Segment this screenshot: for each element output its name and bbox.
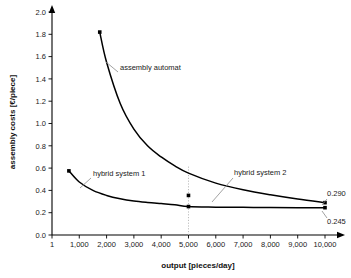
x-axis-title: output [pieces/day] (161, 261, 235, 270)
series-curves (69, 32, 325, 208)
y-tick-label: 0.4 (36, 186, 46, 195)
endpoint-value-labels: 0.2900.245 (327, 189, 346, 226)
data-point-marker (187, 205, 191, 209)
data-point-marker (67, 169, 71, 173)
series-label: assembly automat (120, 63, 182, 72)
x-tick-label: 4,000 (152, 240, 171, 249)
assembly-costs-chart: 0.00.20.40.60.81.01.21.41.61.82.0 assemb… (0, 0, 351, 278)
y-tick-label: 1.4 (36, 75, 46, 84)
y-tick-label: 1.0 (36, 119, 46, 128)
hybrid-system-2-leader-line (212, 178, 233, 202)
data-point-marker (98, 30, 102, 34)
y-tick-label: 0.6 (36, 164, 46, 173)
series-markers (67, 30, 327, 209)
series-annotations: assembly automathybrid system 1hybrid sy… (93, 63, 287, 178)
x-tick-labels: 11,0002,0003,0004,0005,0006,0007,0008,00… (50, 240, 337, 249)
y-axis-group: 0.00.20.40.60.81.01.21.41.61.82.0 assemb… (8, 5, 55, 240)
x-tick-label: 10,000 (314, 240, 337, 249)
annotation-leaders (80, 62, 327, 218)
x-tick-label: 5,000 (179, 240, 198, 249)
y-axis-title: assembly costs [€/piece] (8, 75, 17, 170)
y-tick-label: 0.0 (36, 231, 46, 240)
data-point-marker (187, 194, 191, 198)
y-tick-label: 1.6 (36, 52, 46, 61)
x-axis-group: 11,0002,0003,0004,0005,0006,0007,0008,00… (50, 232, 345, 270)
y-tick-label: 1.2 (36, 97, 46, 106)
x-tick-label: 7,000 (234, 240, 253, 249)
y-tick-label: 0.2 (36, 208, 46, 217)
x-tick-label: 6,000 (206, 240, 225, 249)
x-tick-label: 9,000 (288, 240, 307, 249)
endpoint-value-label: 0.290 (327, 189, 346, 198)
chart-canvas: 0.00.20.40.60.81.01.21.41.61.82.0 assemb… (0, 0, 351, 278)
x-tick-label: 1 (50, 240, 54, 249)
data-point-marker (323, 206, 327, 210)
x-tick-label: 1,000 (70, 240, 89, 249)
x-tick-label: 3,000 (124, 240, 143, 249)
x-tick-label: 8,000 (261, 240, 280, 249)
x-tick-label: 2,000 (97, 240, 116, 249)
x-axis-arrow-icon (337, 232, 345, 238)
series-label: hybrid system 1 (93, 169, 146, 178)
y-tick-labels: 0.00.20.40.60.81.01.21.41.61.82.0 (36, 8, 46, 240)
y-tick-label: 2.0 (36, 8, 46, 17)
series-label: hybrid system 2 (234, 168, 287, 177)
endpoint-value-label: 0.245 (327, 217, 346, 226)
y-tick-label: 1.8 (36, 30, 46, 39)
y-tick-label: 0.8 (36, 142, 46, 151)
